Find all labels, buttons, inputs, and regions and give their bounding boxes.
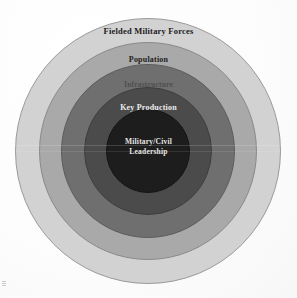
ring-military-civil-leadership: [106, 109, 190, 193]
scan-artifact-speck: [2, 281, 6, 286]
figure-canvas: Fielded Military Forces Population Infra…: [0, 0, 297, 298]
